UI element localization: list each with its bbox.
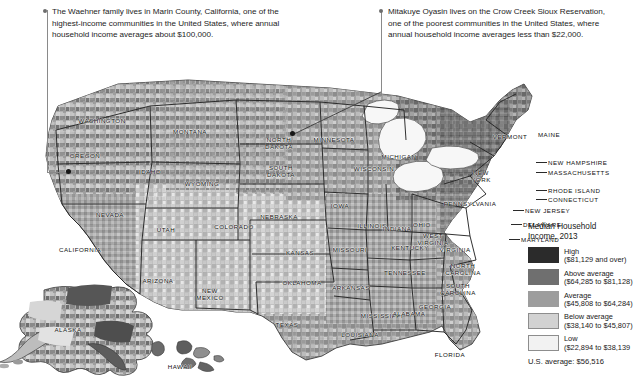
callout-bullet-icon bbox=[43, 9, 47, 13]
legend-row-above-average: Above average($64,285 to $81,128) bbox=[528, 269, 634, 286]
leader-dot-marin-county bbox=[66, 169, 71, 174]
callout-crowcreek-text: Mitakuye Oyasin lives on the Crow Creek … bbox=[388, 7, 605, 39]
state-label-new-hampshire: NEW HAMPSHIRE bbox=[548, 159, 607, 166]
legend-text: Above average($64,285 to $81,128) bbox=[564, 269, 633, 286]
map-infographic: WASHINGTONOREGONIDAHOMONTANAWYOMINGNEVAD… bbox=[0, 0, 635, 378]
legend-swatch-average bbox=[528, 291, 559, 307]
map-legend: Median Household Income, 2013 High($81,1… bbox=[528, 222, 634, 366]
state-label-leader-tick bbox=[511, 224, 522, 225]
callout-marin-text: The Waehner family lives in Marin County… bbox=[52, 7, 279, 39]
legend-swatch-low bbox=[528, 335, 559, 351]
legend-class-range: ($22,894 to $38,139 bbox=[564, 344, 630, 352]
state-label-connecticut: CONNECTICUT bbox=[548, 196, 599, 203]
legend-class-list: High($81,129 and over)Above average($64,… bbox=[528, 247, 634, 352]
legend-row-high: High($81,129 and over) bbox=[528, 247, 634, 264]
callout-crow-creek: Mitakuye Oyasin lives on the Crow Creek … bbox=[388, 6, 620, 41]
legend-text: Low($22,894 to $38,139 bbox=[564, 335, 630, 352]
state-label-leader-tick bbox=[513, 210, 524, 211]
callout-bullet-icon bbox=[379, 9, 383, 13]
leader-line-marin-vertical bbox=[47, 10, 48, 173]
state-label-leader-tick bbox=[536, 199, 547, 200]
legend-swatch-high bbox=[528, 247, 559, 263]
legend-class-range: ($45,808 to $64,284) bbox=[564, 300, 633, 308]
legend-swatch-above-average bbox=[528, 269, 559, 285]
state-label-leader-tick bbox=[536, 190, 547, 191]
alaska-inset bbox=[0, 284, 153, 375]
legend-row-low: Low($22,894 to $38,139 bbox=[528, 335, 634, 352]
legend-text: High($81,129 and over) bbox=[564, 247, 626, 264]
legend-class-range: ($64,285 to $81,128) bbox=[564, 278, 633, 286]
state-label-leader-tick bbox=[509, 239, 520, 240]
state-label-leader-tick bbox=[536, 172, 547, 173]
leader-line-crowcreek-diagonal bbox=[290, 90, 386, 138]
legend-row-below-average: Below average($38,140 to $45,807) bbox=[528, 313, 634, 330]
leader-dot-crow-creek bbox=[290, 131, 295, 136]
legend-text: Average($45,808 to $64,284) bbox=[564, 291, 633, 308]
state-label-line: MAINE bbox=[538, 131, 560, 138]
state-label-rhode-island: RHODE ISLAND bbox=[548, 187, 600, 194]
callout-marin-county: The Waehner family lives in Marin County… bbox=[52, 6, 305, 41]
legend-class-range: ($38,140 to $45,807) bbox=[564, 322, 633, 330]
us-average-note: U.S. average: $56,516 bbox=[528, 357, 634, 366]
legend-row-average: Average($45,808 to $64,284) bbox=[528, 291, 634, 308]
hawaii-inset bbox=[152, 341, 224, 372]
legend-swatch-below-average bbox=[528, 313, 559, 329]
state-label-leader-tick bbox=[536, 162, 547, 163]
legend-text: Below average($38,140 to $45,807) bbox=[564, 313, 633, 330]
state-label-massachusetts: MASSACHUSETTS bbox=[548, 169, 610, 176]
state-label-maine: MAINE bbox=[538, 131, 560, 138]
leader-line-crowcreek-vertical bbox=[381, 10, 382, 94]
legend-class-range: ($81,129 and over) bbox=[564, 256, 626, 264]
legend-title: Median Household Income, 2013 bbox=[528, 222, 634, 242]
choropleth-map bbox=[0, 44, 540, 378]
